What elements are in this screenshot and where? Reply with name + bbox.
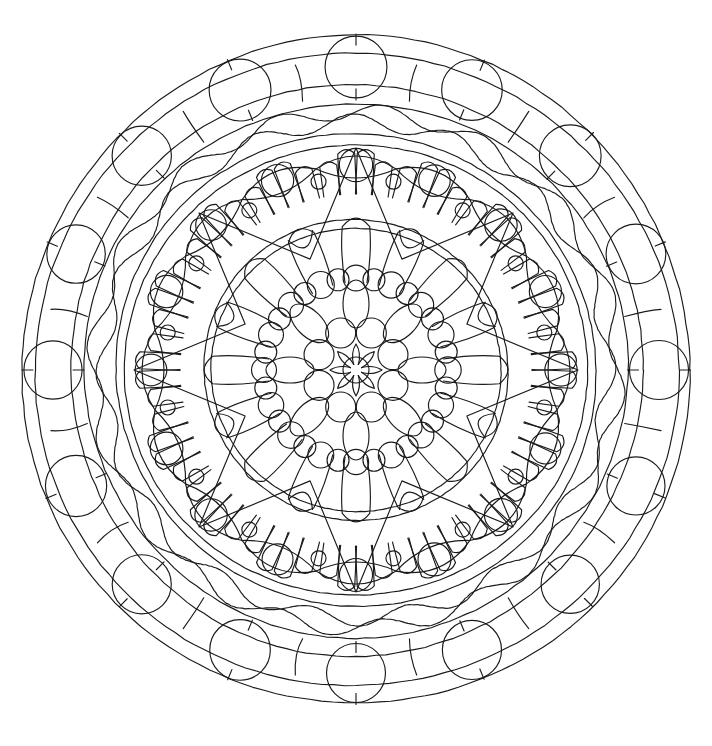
core-petal [330,366,351,373]
core-petal-ring [330,344,382,396]
finger-petal [245,187,275,222]
wave-connector [625,423,661,430]
core-petal [361,366,382,373]
finger-petal [173,451,208,481]
finger-petal [524,407,559,431]
core-petal [352,344,359,365]
petal-side-bead [435,341,457,363]
core-petal [358,372,374,388]
core-petal [352,375,359,396]
petal-side-bead [435,377,457,399]
finger-petal [504,259,539,289]
wave-connector [584,197,615,218]
finger-petal [173,259,208,289]
core-bead [378,370,408,400]
finger-petal [524,309,559,333]
inner-petal [410,424,467,481]
mid-oval [377,391,429,443]
inner-petal [204,356,269,385]
finger-petal [153,407,188,431]
inner-bead [408,422,434,448]
finger-gap-bead [160,400,175,415]
bead-tick-outer [119,133,127,141]
core-petal [338,372,354,388]
petal-side-bead [255,341,277,363]
wave-connector [295,639,302,675]
middle-boundary-circle [116,134,596,607]
mid-oval [398,357,446,383]
wave-connector [183,111,204,142]
core-petal [358,352,374,368]
inner-boundary-circle [211,228,501,512]
mandala-canvas [0,0,712,746]
core-bead [326,318,356,348]
mid-oval [377,297,429,349]
bead-tick-outer [119,599,127,607]
mid-oval [266,357,314,383]
core-hub [343,357,369,383]
finger-petal [393,538,417,573]
petal-side-bead [327,269,349,291]
outer-bead [47,225,105,283]
bead-tick-inner [156,562,164,570]
finger-gap-bead [311,174,326,189]
outer-boundary-ring [22,35,690,703]
wave-connector [508,111,529,142]
core-bead [304,340,334,370]
outer-bead [45,455,106,516]
bead-tick-inner [156,170,164,178]
wave-connector [409,639,416,675]
finger-petal [153,309,188,333]
core-bead [304,370,334,400]
wave-connector [295,65,302,101]
mid-oval [343,412,369,460]
inner-boundary-circle [204,219,508,520]
inner-bead-ring [252,265,462,474]
outer-large-circle-ring [22,34,691,704]
bead-tick-inner [547,171,555,179]
wave-connector [51,423,87,430]
core-bead [356,392,386,422]
petal-side-bead [327,449,349,471]
bead-tick-outer [585,599,593,607]
finger-petal [245,518,275,553]
finger-petal-ring [136,150,577,591]
middle-boundary-ring [116,134,596,607]
mid-oval [343,280,369,328]
boundary-circle [35,53,680,686]
core-bead-ring [304,318,408,422]
mid-oval-ring [266,280,446,460]
mandala-artwork [0,0,712,746]
mid-oval [283,297,335,349]
finger-gap-bead [537,325,552,340]
wave-connector [183,598,204,629]
petal-side-bead [363,269,385,291]
inner-bead [408,292,433,317]
wave-connector [51,309,87,316]
core-petal [338,352,354,368]
wave-connector [584,522,615,543]
inner-disc-boundary [204,219,508,520]
inner-petal [410,259,467,316]
inner-bead [278,292,303,317]
middle-boundary-circle [124,145,587,595]
wave-connector [97,197,128,218]
boundary-circle [22,35,690,703]
core-hub-circle [343,357,369,383]
bead-tick-outer [586,133,594,141]
finger-petal [504,451,539,481]
wave-connector [625,309,661,316]
core-bead [378,340,408,370]
petal-side-bead [363,449,385,471]
finger-petal [393,167,417,202]
finger-petal [437,518,467,553]
inner-petal [245,424,302,481]
outer-bead [209,59,271,121]
petal-side-bead [255,377,277,399]
outer-bead [606,224,666,284]
bead-tick-inner [548,562,556,570]
outer-bead [442,60,503,121]
finger-petal [295,538,319,573]
wave-connector [97,522,128,543]
outer-bead [442,620,501,679]
